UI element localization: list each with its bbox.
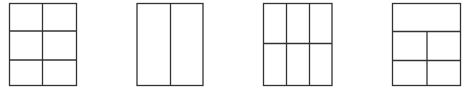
layout-grid-3x2-icon[interactable] [230, 0, 350, 92]
layout-grid-2x3-icon[interactable] [0, 0, 110, 92]
layout-header-plus-grid-icon[interactable] [350, 0, 469, 92]
layout-two-columns-icon[interactable] [110, 0, 230, 92]
